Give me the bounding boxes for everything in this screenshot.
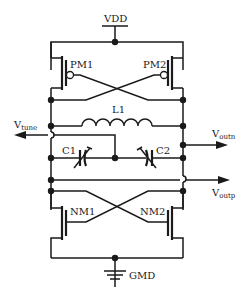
voutp-label: Voutp xyxy=(211,187,236,200)
varactor-c1: C1 xyxy=(62,145,92,168)
inductor-l1: L1 xyxy=(51,104,183,126)
voutn-port: Voutn xyxy=(183,128,236,149)
voutn-label: Voutn xyxy=(211,128,236,141)
nm1-label: NM1 xyxy=(70,206,95,217)
c2-label: C2 xyxy=(156,145,170,156)
pmos-pm2: PM2 xyxy=(143,56,183,100)
nmos-nm2: NM2 xyxy=(140,191,183,258)
nmos-nm1: NM1 xyxy=(51,191,95,258)
vtune-arrow-icon xyxy=(14,131,26,139)
vdd-label: VDD xyxy=(103,13,127,24)
pm2-label: PM2 xyxy=(143,59,166,70)
vco-schematic: VDD PM1 PM2 xyxy=(0,0,249,296)
varactor-c2: C2 xyxy=(137,145,170,168)
vtune-label: Vtune xyxy=(13,119,37,132)
l1-label: L1 xyxy=(112,104,125,115)
voutp-arrow-icon xyxy=(218,176,230,184)
gmd-label: GMD xyxy=(129,270,155,281)
pmos-pm1: PM1 xyxy=(51,42,93,100)
c1-label: C1 xyxy=(62,145,76,156)
voutn-arrow-icon xyxy=(216,141,228,149)
nm2-label: NM2 xyxy=(140,206,165,217)
ground-supply: GMD xyxy=(51,255,183,287)
vdd-supply: VDD xyxy=(102,13,128,45)
pm1-label: PM1 xyxy=(70,59,93,70)
voutp-port: Voutp xyxy=(51,176,236,200)
varactor-row: C1 C2 xyxy=(51,145,183,168)
